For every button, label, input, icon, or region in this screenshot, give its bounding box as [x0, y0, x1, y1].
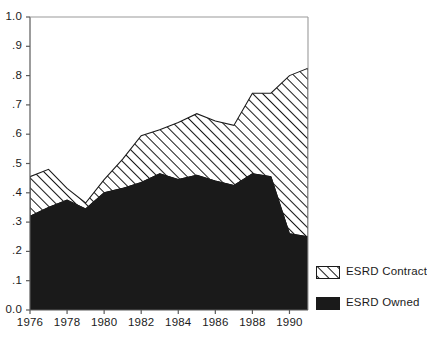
y-tick-label: .4 — [0, 186, 22, 198]
y-tick-label: .6 — [0, 127, 22, 139]
x-tick-label: 1990 — [264, 316, 314, 328]
y-tick-label: .3 — [0, 215, 22, 227]
y-tick-label: 1.0 — [0, 10, 22, 22]
y-tick-label: .9 — [0, 39, 22, 51]
y-tick-label: 0.0 — [0, 303, 22, 315]
legend-swatch-esrd-owned — [316, 297, 340, 310]
legend-label-esrd-owned: ESRD Owned — [346, 296, 420, 308]
y-tick-label: .7 — [0, 98, 22, 110]
y-tick-label: .1 — [0, 274, 22, 286]
y-tick-label: .2 — [0, 244, 22, 256]
legend-label-esrd-contract: ESRD Contract — [346, 265, 427, 277]
legend-swatch-esrd-contract — [316, 266, 340, 279]
series-layer — [30, 68, 308, 310]
y-tick-label: .5 — [0, 157, 22, 169]
y-tick-label: .8 — [0, 69, 22, 81]
